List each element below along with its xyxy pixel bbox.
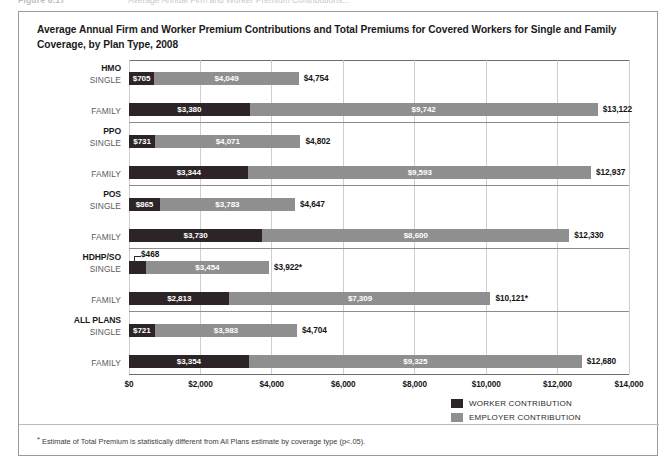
row-label-single: SINGLE [19,327,121,337]
legend-item-worker-contribution: WORKER CONTRIBUTION [451,397,647,409]
bar-label-employer: $4,049 [154,72,299,85]
bar-label-total: $4,754 [304,72,329,85]
bar-label-employer: $7,309 [229,292,490,305]
x-axis-tick-label: $2,000 [170,380,230,389]
group-separator [129,248,629,249]
bar-label-worker: $731 [129,135,155,148]
bar-label-employer: $9,742 [250,103,598,116]
chart-plot-area: HMOSINGLE$705$4,049$4,754FAMILY$3,380$9,… [19,12,659,457]
bar-label-total: $10,121* [495,292,527,305]
legend-item-employer-contribution: EMPLOYER CONTRIBUTION [451,411,647,423]
bar-label-total: $4,704 [302,324,327,337]
bar-callout-leader-line [134,256,141,262]
bar-label-total: $13,122 [603,103,632,116]
bar-label-total: $3,922* [274,261,302,274]
bar-label-worker: $721 [129,324,155,337]
bar-label-total: $12,330 [574,229,603,242]
bar-label-employer: $3,454 [146,261,269,274]
legend-swatch-worker-contribution [451,399,463,408]
row-label-single: SINGLE [19,138,121,148]
legend-label-employer-contribution: EMPLOYER CONTRIBUTION [469,413,581,422]
bar-label-employer: $4,071 [155,135,300,148]
row-label-family: FAMILY [19,106,121,116]
group-label-ppo: PPO [19,126,121,136]
bar-label-total: $12,680 [587,355,616,368]
axis-line-bottom [129,374,629,375]
x-axis-tick-label: $12,000 [528,380,588,389]
group-separator [129,122,629,123]
group-label-all-plans: ALL PLANS [19,315,121,325]
group-separator [129,185,629,186]
bar-label-worker: $865 [129,198,160,211]
row-label-single: SINGLE [19,264,121,274]
bar-label-total: $4,802 [306,135,331,148]
scan-artifact-header: Figure 6.17 Average Annual Firm and Work… [0,0,668,11]
bar-label-worker: $2,813 [129,292,229,305]
bar-label-worker: $3,344 [129,166,248,179]
row-label-family: FAMILY [19,295,121,305]
bar-label-employer: $9,325 [249,355,582,368]
bar-label-employer: $3,983 [155,324,297,337]
legend-label-worker-contribution: WORKER CONTRIBUTION [469,399,572,408]
row-label-family: FAMILY [19,358,121,368]
group-label-hdhp-so: HDHP/SO [19,252,121,262]
row-label-single: SINGLE [19,75,121,85]
bar-label-employer: $9,593 [248,166,591,179]
x-axis-tick-label: $4,000 [242,380,302,389]
group-label-hmo: HMO [19,63,121,73]
bar-segment-worker [129,261,146,274]
bar-label-worker: $3,380 [129,103,250,116]
x-axis-tick-label: $10,000 [456,380,516,389]
group-separator [129,311,629,312]
axis-line-top [129,60,629,61]
row-label-single: SINGLE [19,201,121,211]
figure-container: Average Annual Firm and Worker Premium C… [18,11,658,456]
scan-artifact-caption: Average Annual Firm and Worker Premium C… [128,0,349,5]
bar-label-worker: $705 [129,72,154,85]
x-axis-tick-label: $0 [99,380,159,389]
row-label-family: FAMILY [19,232,121,242]
footnote-text: Estimate of Total Premium is statistical… [42,437,365,446]
legend-swatch-employer-contribution [451,413,463,422]
group-label-pos: POS [19,189,121,199]
row-label-family: FAMILY [19,169,121,179]
chart-legend: WORKER CONTRIBUTIONEMPLOYER CONTRIBUTION [451,397,647,425]
x-axis-tick-label: $14,000 [599,380,659,389]
x-axis-tick-label: $8,000 [385,380,445,389]
bar-label-total: $4,647 [300,198,325,211]
footnote-divider [19,424,659,425]
bar-label-total: $12,937 [596,166,625,179]
footnote-marker: * [37,435,40,444]
bar-label-worker: $3,730 [129,229,262,242]
bar-callout-worker-label: $468 [141,249,159,259]
bar-label-employer: $3,783 [160,198,295,211]
x-axis-tick-label: $6,000 [313,380,373,389]
scan-artifact-figure-number: Figure 6.17 [18,0,65,5]
bar-label-employer: $8,600 [262,229,569,242]
bar-label-worker: $3,354 [129,355,249,368]
figure-footnote: * Estimate of Total Premium is statistic… [37,435,637,447]
